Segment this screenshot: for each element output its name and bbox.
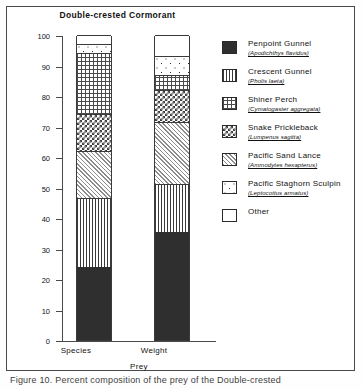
bar-segment [155,122,189,185]
bar-segment [155,184,189,231]
legend-item[interactable]: Pacific Sand Lance(Ammodytes hexapterus) [222,152,354,180]
legend-scientific-name: (Cymatogaster aggregata) [248,106,320,112]
figure-container: Double-crested Cormorant Percent 0102030… [0,0,363,389]
legend-scientific-name: (Apodichthys flavidus) [248,50,309,56]
bar-segment [155,35,189,56]
legend-scientific-name: (Pholis laeta) [248,78,284,84]
legend-common-name: Other [248,207,269,216]
legend-common-name: Pacific Staghorn Sculpin [248,179,341,188]
bar-segment [77,53,111,114]
legend-swatch-icon [222,209,237,222]
legend: Penpoint Gunnel(Apodichthys flavidus)Cre… [222,40,354,236]
legend-common-name: Crescent Gunnel [248,67,312,76]
legend-item[interactable]: Penpoint Gunnel(Apodichthys flavidus) [222,40,354,68]
legend-swatch-icon [222,125,237,138]
legend-item[interactable]: Snake Prickleback(Lumpenus sagitta) [222,124,354,152]
bar-segment [77,44,111,53]
y-tick-label: 60 [20,154,50,163]
figure-caption: Figure 10. Percent composition of the pr… [10,375,353,389]
y-tick-label: 30 [20,246,50,255]
y-tick-mark [56,341,62,342]
bar-segment [155,56,189,74]
y-tick-label: 50 [20,185,50,194]
x-tick-label-weight: Weight [119,346,189,355]
bar-segment [77,267,111,340]
bar-segment [77,114,111,151]
bar-segment [77,151,111,198]
legend-item[interactable]: Shiner Perch(Cymatogaster aggregata) [222,96,354,124]
legend-swatch-icon [222,181,237,194]
legend-scientific-name: (Lumpenus sagitta) [248,134,301,140]
x-axis-title: Prey [62,362,216,371]
y-tick-label: 0 [20,337,50,346]
legend-item[interactable]: Pacific Staghorn Sculpin(Leptocottus arm… [222,180,354,208]
y-tick-label: 20 [20,276,50,285]
y-tick-label: 80 [20,93,50,102]
chart-title: Double-crested Cormorant [20,10,215,20]
y-tick-label: 90 [20,63,50,72]
legend-common-name: Shiner Perch [248,95,297,104]
y-tick-label: 40 [20,215,50,224]
x-tick-label-species: Species [41,346,111,355]
bar-segment [155,232,189,340]
legend-common-name: Penpoint Gunnel [248,39,311,48]
y-tick-label: 100 [20,32,50,41]
legend-swatch-icon [222,97,237,110]
stacked-bar-weight [154,36,190,341]
y-tick-label: 70 [20,124,50,133]
stacked-bar-species [76,36,112,341]
bar-segment [155,90,189,122]
bar-segment [77,198,111,267]
legend-swatch-icon [222,41,237,54]
bar-segment [155,75,189,90]
legend-scientific-name: (Leptocottus armatus) [248,190,308,196]
legend-item[interactable]: Crescent Gunnel(Pholis laeta) [222,68,354,96]
y-tick-label: 10 [20,307,50,316]
legend-swatch-icon [222,69,237,82]
legend-scientific-name: (Ammodytes hexapterus) [248,162,317,168]
legend-common-name: Pacific Sand Lance [248,151,321,160]
x-axis-line [62,341,216,342]
plot-area [62,36,210,341]
bar-segment [77,35,111,44]
legend-common-name: Snake Prickleback [248,123,318,132]
legend-swatch-icon [222,153,237,166]
legend-item[interactable]: Other [222,208,354,236]
